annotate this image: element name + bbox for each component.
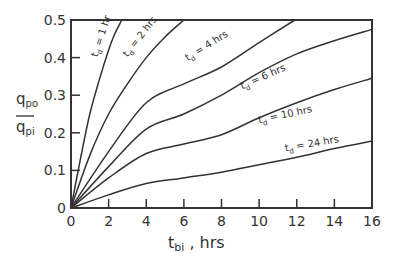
- series-curves: [71, 20, 372, 208]
- x-tick-label: 2: [104, 213, 113, 229]
- x-tick-label: 10: [250, 213, 268, 229]
- y-axis-label: qpoqpi: [16, 90, 38, 137]
- x-tick-label: 12: [288, 213, 306, 229]
- plot-frame: [71, 20, 372, 208]
- y-tick-label: 0.5: [44, 12, 66, 28]
- svg-text:qpi: qpi: [16, 118, 35, 137]
- curve-td-24: [71, 141, 372, 208]
- x-tick-label: 4: [142, 213, 151, 229]
- y-tick-label: 0.2: [44, 125, 66, 141]
- x-axis-label: tbi , hrs: [168, 233, 225, 254]
- y-tick-label: 0.4: [44, 50, 66, 66]
- y-tick-label: 0: [57, 200, 66, 216]
- curve-td-6: [71, 29, 372, 208]
- x-tick-label: 8: [217, 213, 226, 229]
- x-tick-label: 6: [179, 213, 188, 229]
- hydrograph-chart: 024681012141600.10.20.30.40.5 td = 1 hrt…: [0, 0, 399, 261]
- y-tick-label: 0.3: [44, 87, 66, 103]
- svg-text:tbi , hrs: tbi , hrs: [168, 233, 225, 254]
- y-tick-label: 0.1: [44, 162, 66, 178]
- curve-label: td = 4 hrs: [183, 28, 231, 65]
- x-tick-label: 16: [363, 213, 381, 229]
- x-tick-label: 0: [67, 213, 76, 229]
- svg-text:qpo: qpo: [16, 90, 38, 109]
- curve-label: td = 6 hrs: [239, 62, 289, 94]
- x-tick-label: 14: [325, 213, 343, 229]
